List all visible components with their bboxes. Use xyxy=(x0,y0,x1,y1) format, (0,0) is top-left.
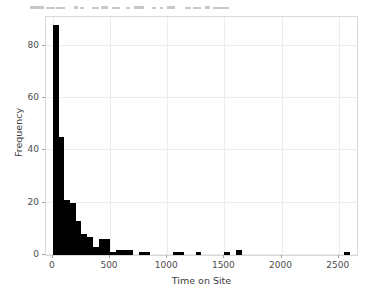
y-axis-tick-mark xyxy=(42,254,45,255)
x-axis-title: Time on Site xyxy=(45,275,358,286)
y-axis-tick-label: 20 xyxy=(9,198,39,207)
x-axis-tick-mark xyxy=(223,255,224,258)
histogram-bar xyxy=(224,252,230,255)
x-axis-tick-label: 1000 xyxy=(146,261,186,270)
histogram-bar xyxy=(144,252,150,255)
x-axis-tick-label: 500 xyxy=(89,261,129,270)
x-axis-tick-mark xyxy=(281,255,282,258)
bars-layer xyxy=(46,17,357,255)
x-axis-tick-mark xyxy=(52,255,53,258)
y-axis-title: Frequency xyxy=(13,93,24,173)
x-axis-tick-mark xyxy=(109,255,110,258)
x-axis-tick-label: 0 xyxy=(32,261,72,270)
histogram-bar xyxy=(344,252,350,255)
x-axis-tick-mark xyxy=(166,255,167,258)
histogram-chart: 02040608005001000150020002500 Frequency … xyxy=(0,9,371,292)
y-axis-tick-mark xyxy=(42,45,45,46)
histogram-bar xyxy=(127,250,133,255)
y-axis-tick-label: 0 xyxy=(9,250,39,259)
x-axis-tick-mark xyxy=(338,255,339,258)
histogram-bar xyxy=(236,250,242,255)
application-toolbar[interactable] xyxy=(0,0,371,9)
x-axis-tick-label: 2500 xyxy=(318,261,358,270)
y-axis-tick-label: 80 xyxy=(9,41,39,50)
y-axis-tick-mark xyxy=(42,202,45,203)
histogram-bar xyxy=(196,252,202,255)
y-axis-tick-mark xyxy=(42,97,45,98)
histogram-bar xyxy=(179,252,185,255)
plot-panel xyxy=(45,16,358,256)
x-axis-tick-label: 2000 xyxy=(261,261,301,270)
x-axis-tick-label: 1500 xyxy=(203,261,243,270)
y-axis-tick-mark xyxy=(42,149,45,150)
